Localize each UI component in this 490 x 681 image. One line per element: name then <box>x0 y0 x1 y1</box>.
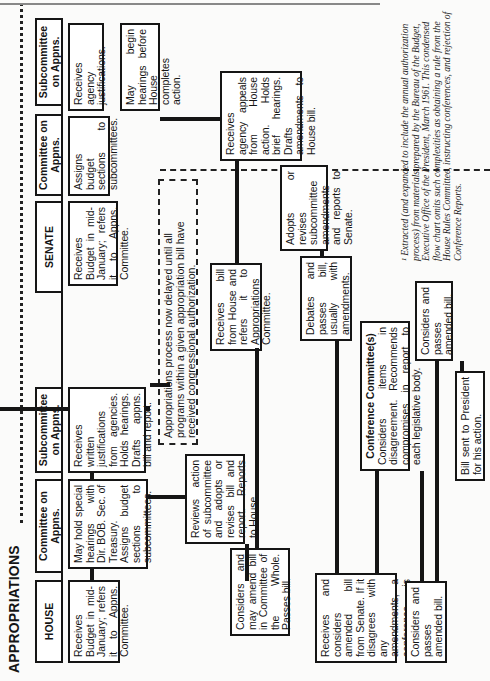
box-house-committee-hearings: May hold special hearings with Dir. BOB.… <box>68 479 148 569</box>
box-house-considers-passes: Considers and may amend bill in Committe… <box>230 548 290 636</box>
header-senate-subcommittee-cell: Subcommittee on Appns. <box>35 18 63 106</box>
box-senate-agency-appeals: Receives agency appeals from House actio… <box>220 71 302 161</box>
box-senate-passes-amended: Considers and passes amended bill. <box>415 281 453 361</box>
flow-line <box>320 251 324 256</box>
box-house-subcommittee-justifications: Receives written justifications from age… <box>68 387 146 473</box>
flow-line <box>460 361 464 371</box>
title-dotted-rule <box>20 3 23 523</box>
box-house-committee-reviews: Reviews action of subcommittee and adopt… <box>185 454 245 544</box>
box-senate-subcommittee-justifications-cell: Receives agency justifications. <box>68 23 104 111</box>
flow-line <box>435 361 439 581</box>
box-bill-to-president: Bill sent to President for his action. <box>455 371 485 481</box>
box-senate-debates: Debates and passes bill, usually with am… <box>300 256 352 341</box>
flow-line <box>335 341 339 573</box>
box-senate-committee-assigns-cell: Assigns budget sections to subcommittees… <box>68 116 110 196</box>
box-house-passes-amended: Considers and passes amended bill. <box>405 581 447 663</box>
header-house: HOUSE <box>35 580 63 663</box>
flow-line <box>90 473 94 479</box>
page-edge-rule <box>0 3 380 5</box>
header-house-subcommittee: Subcommittee on Appns. <box>35 387 63 473</box>
box-conference-committee: Conference Committee(s) Considers items … <box>360 321 410 471</box>
flow-line <box>420 471 424 581</box>
flow-line <box>148 495 185 499</box>
flow-line <box>245 544 249 581</box>
box-senate-receives-bill: Receives bill from House and refers it t… <box>210 263 262 351</box>
header-house-committee: Committee on Appns. <box>35 479 63 573</box>
box-house-receives-amended: Receives and considers amended bill from… <box>315 573 397 663</box>
flow-line <box>150 383 170 387</box>
flow-chart-page: APPROPRIATIONS HOUSE Committee on Appns.… <box>0 0 490 681</box>
flow-line <box>235 161 239 263</box>
flow-line <box>90 569 94 580</box>
footnote: ¹ Extracted (and expanded to include the… <box>400 6 463 261</box>
header-senate-committee-cell: Committee on Appns. <box>35 114 63 196</box>
authorization-note: Appropriations process now delayed until… <box>158 179 198 445</box>
box-senate-receives-budget: Receives Budget in mid-January; refers i… <box>68 201 118 286</box>
box-senate-early-hearings: May begin hearings before House complete… <box>120 23 160 111</box>
flow-line <box>255 348 259 548</box>
box-senate-committee-adopts: Adopts or revises subcommittee amendment… <box>280 165 328 251</box>
header-rule <box>61 18 63 663</box>
box-house-receives-budget: Receives Budget in mid-January; refers i… <box>68 580 120 663</box>
flow-line <box>375 471 379 573</box>
chart-title: APPROPRIATIONS <box>6 545 22 673</box>
header-senate: SENATE <box>35 201 63 293</box>
flow-line <box>160 117 220 121</box>
